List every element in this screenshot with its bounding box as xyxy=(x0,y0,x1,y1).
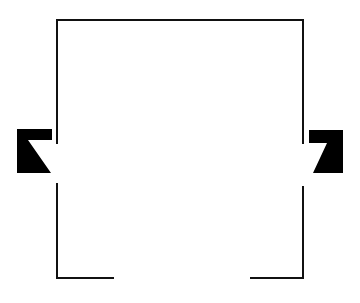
diagram-canvas xyxy=(0,0,360,303)
right-black-block-shape xyxy=(309,130,343,173)
frame-outline xyxy=(57,20,303,278)
left-black-block-shape xyxy=(17,129,52,173)
